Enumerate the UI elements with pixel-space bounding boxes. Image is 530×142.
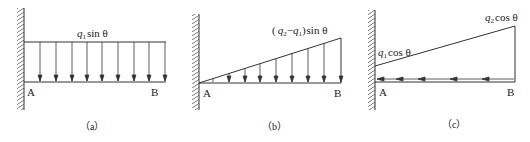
load-label-c-right: q2cos θ [485,11,518,25]
diagram-c: q1cos θ q2cos θ A B （c） [368,10,518,130]
load-label-b: (q2−q1)sin θ [272,24,327,38]
fixed-wall-hatch [17,8,24,110]
point-a-label: A [27,86,35,98]
caption-c: （c） [442,119,466,130]
axial-load-arrows [377,77,514,81]
fixed-wall-hatch [368,10,375,110]
point-b-label: B [507,86,514,98]
load-arrows [38,42,167,81]
caption-a: （a） [80,121,104,132]
load-label-a: q1sin θ [77,27,108,41]
diagram-a: q1sin θ A B （a） [17,8,167,132]
caption-b: （b） [262,121,287,132]
beam-load-diagrams: q1sin θ A B （a） (q2−q1)sin θ A B （b） [0,0,530,142]
load-arrows [213,43,343,82]
load-label-c-left: q1cos θ [378,46,411,60]
point-a-label: A [203,87,211,99]
point-b-label: B [334,87,341,99]
fixed-wall-hatch [192,14,199,110]
diagram-b: (q2−q1)sin θ A B （b） [192,14,343,132]
point-b-label: B [151,86,158,98]
point-a-label: A [379,86,387,98]
load-slope-line [199,38,341,83]
